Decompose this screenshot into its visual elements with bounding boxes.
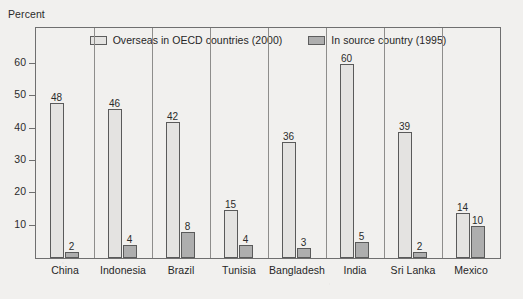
group-separator (94, 28, 95, 258)
bar-value-label: 4 (127, 234, 133, 245)
y-axis-tick (29, 128, 36, 129)
bar-bangladesh-series-1: 3 (297, 248, 311, 258)
group-separator (210, 28, 211, 258)
plot-area: 4824644281543636053921410 (36, 28, 500, 258)
bar-value-label: 2 (69, 241, 75, 252)
bar-value-label: 8 (185, 221, 191, 232)
x-axis-label-mexico: Mexico (442, 264, 500, 276)
y-axis-label: 60 (4, 56, 26, 68)
bar-value-label: 46 (109, 98, 120, 109)
bar-india-series-0: 60 (340, 64, 354, 258)
bar-value-label: 3 (301, 237, 307, 248)
bar-value-label: 48 (51, 92, 62, 103)
y-axis-label: 20 (4, 185, 26, 197)
bar-sri-lanka-series-0: 39 (398, 132, 412, 258)
bar-sri-lanka-series-1: 2 (413, 252, 427, 258)
group-separator (326, 28, 327, 258)
bar-value-label: 42 (167, 111, 178, 122)
y-axis-tick (29, 160, 36, 161)
bar-indonesia-series-0: 46 (108, 109, 122, 258)
x-axis-label-india: India (326, 264, 384, 276)
group-separator (384, 28, 385, 258)
x-axis-label-china: China (36, 264, 94, 276)
y-axis-tick (29, 225, 36, 226)
bar-value-label: 4 (243, 234, 249, 245)
bar-brazil-series-1: 8 (181, 232, 195, 258)
y-axis-tick (29, 95, 36, 96)
bar-tunisia-series-1: 4 (239, 245, 253, 258)
bar-mexico-series-0: 14 (456, 213, 470, 258)
x-axis-label-brazil: Brazil (152, 264, 210, 276)
x-axis-label-bangladesh: Bangladesh (268, 264, 326, 276)
bar-mexico-series-1: 10 (471, 226, 485, 258)
bar-indonesia-series-1: 4 (123, 245, 137, 258)
bar-value-label: 5 (359, 231, 365, 242)
y-axis-title: Percent (8, 8, 45, 20)
y-axis-label: 30 (4, 153, 26, 165)
bar-value-label: 2 (417, 241, 423, 252)
bar-bangladesh-series-0: 36 (282, 142, 296, 258)
y-axis-label: 50 (4, 88, 26, 100)
bar-china-series-1: 2 (65, 252, 79, 258)
bar-value-label: 60 (341, 53, 352, 64)
group-separator (152, 28, 153, 258)
bar-value-label: 36 (283, 131, 294, 142)
x-axis-label-indonesia: Indonesia (94, 264, 152, 276)
bar-tunisia-series-0: 15 (224, 210, 238, 258)
group-separator (268, 28, 269, 258)
bar-value-label: 14 (457, 202, 468, 213)
y-axis-label: 10 (4, 218, 26, 230)
bar-value-label: 39 (399, 121, 410, 132)
x-axis-label-sri-lanka: Sri Lanka (384, 264, 442, 276)
y-axis-label: 40 (4, 121, 26, 133)
y-axis-tick (29, 192, 36, 193)
group-separator (442, 28, 443, 258)
bar-value-label: 15 (225, 199, 236, 210)
bar-brazil-series-0: 42 (166, 122, 180, 258)
bar-chart: Percent Overseas in OECD countries (2000… (0, 0, 523, 299)
bar-china-series-0: 48 (50, 103, 64, 258)
bar-india-series-1: 5 (355, 242, 369, 258)
bar-value-label: 10 (472, 215, 483, 226)
y-axis-tick (29, 63, 36, 64)
x-axis-label-tunisia: Tunisia (210, 264, 268, 276)
